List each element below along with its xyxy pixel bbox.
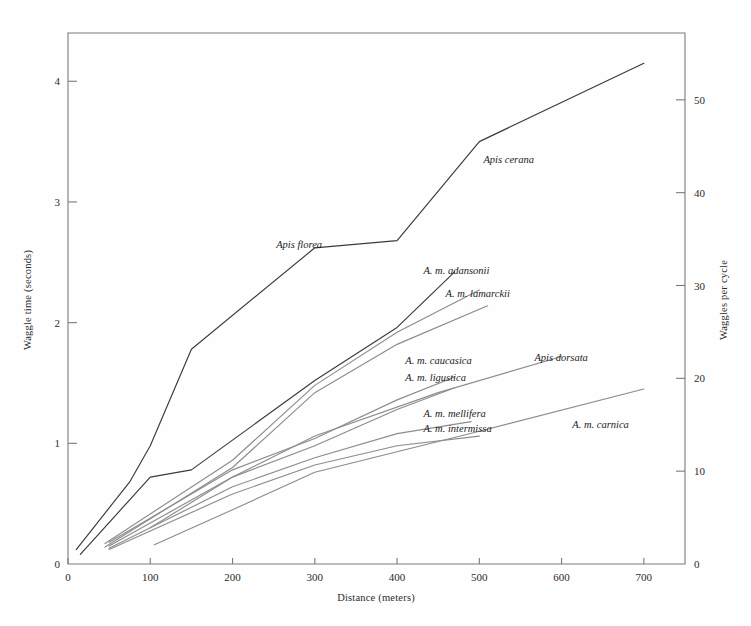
x-tick-label: 300: [307, 571, 324, 583]
y2-axis-title: Waggles per cycle: [718, 260, 729, 340]
series-label: A. m. carnica: [571, 419, 629, 430]
series-label: A. m. caucasica: [404, 355, 471, 366]
y-tick-label: 2: [55, 317, 61, 329]
y-axis-ticks: 01234: [55, 75, 78, 570]
y2-tick-label: 40: [694, 187, 706, 199]
series-line: [154, 389, 643, 545]
x-tick-label: 0: [65, 571, 71, 583]
y2-tick-label: 30: [694, 280, 706, 292]
y2-tick-label: 0: [694, 558, 700, 570]
y-tick-label: 3: [55, 196, 61, 208]
y2-tick-label: 50: [694, 94, 706, 106]
x-axis-title: Distance (meters): [337, 592, 415, 604]
y2-tick-label: 10: [694, 465, 706, 477]
x-tick-label: 100: [142, 571, 159, 583]
series-label: Apis cerana: [482, 154, 533, 165]
y2-axis-ticks: 01020304050: [676, 94, 706, 570]
x-tick-label: 600: [553, 571, 570, 583]
series-curves: [76, 63, 644, 554]
waggle-dance-chart: 0100200300400500600700 01234 01020304050…: [0, 0, 751, 626]
series-label: A. m. ligustica: [404, 372, 466, 383]
y-tick-label: 4: [55, 75, 61, 87]
x-tick-label: 400: [389, 571, 406, 583]
series-line: [80, 272, 454, 554]
x-axis-ticks: 0100200300400500600700: [65, 558, 652, 583]
series-label: A. m. adansonii: [422, 265, 489, 276]
x-tick-label: 700: [636, 571, 653, 583]
y-tick-label: 0: [55, 558, 61, 570]
chart-canvas: 0100200300400500600700 01234 01020304050…: [0, 0, 751, 626]
series-label: A. m. mellifera: [422, 408, 485, 419]
series-line: [76, 63, 644, 549]
y-tick-label: 1: [55, 437, 61, 449]
x-tick-label: 500: [471, 571, 488, 583]
plot-frame: [68, 33, 685, 564]
series-labels: Apis ceranaApis floreaA. m. adansoniiA. …: [275, 154, 629, 434]
series-line: [109, 422, 471, 549]
series-label: Apis dorsata: [533, 352, 587, 363]
series-label: A. m. intermissa: [422, 423, 491, 434]
y2-tick-label: 20: [694, 372, 706, 384]
series-line: [150, 356, 561, 527]
y-axis-title: Waggle time (seconds): [22, 250, 34, 350]
series-label: A. m. lamarckii: [445, 288, 510, 299]
x-tick-label: 200: [224, 571, 241, 583]
series-label: Apis florea: [275, 239, 322, 250]
